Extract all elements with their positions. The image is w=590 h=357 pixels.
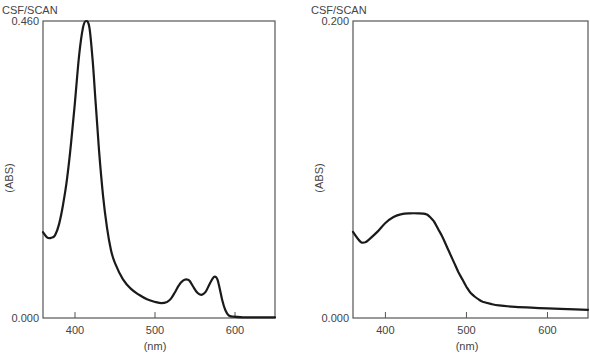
left-x-axis-label: (nm) [144,340,167,352]
left-y-axis-label: (ABS) [3,163,15,192]
left-y-max-label: 0.460 [11,15,39,27]
left-chart-panel: CSF/SCAN 0.460 0.000 (ABS) 400500600 (nm… [2,4,275,352]
right-series-line [353,213,588,310]
right-x-axis-label: (nm) [456,340,479,352]
left-x-tick-label-600: 600 [226,324,244,336]
right-x-tick-label-600: 600 [538,324,556,336]
right-plot-frame [353,21,588,318]
right-y-max-label: 0.200 [321,15,349,27]
right-y-axis-label: (ABS) [313,163,325,192]
right-y-min-label: 0.000 [321,312,349,324]
right-x-tick-label-400: 400 [376,324,394,336]
left-series-line [43,21,275,317]
right-chart-panel: CSF/SCAN 0.200 0.000 (ABS) 400500600 (nm… [311,4,588,352]
right-x-tick-label-500: 500 [457,324,475,336]
left-x-tick-label-500: 500 [146,324,164,336]
left-x-tick-label-400: 400 [66,324,84,336]
left-y-min-label: 0.000 [11,312,39,324]
chart-figure: CSF/SCAN 0.460 0.000 (ABS) 400500600 (nm… [0,0,590,357]
